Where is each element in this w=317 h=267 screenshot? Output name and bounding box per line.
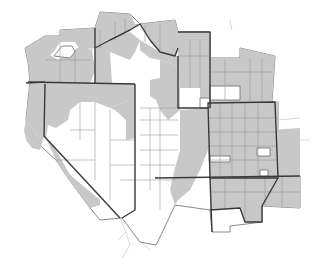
border-or-ca: [26, 82, 45, 83]
region-colorado: [208, 102, 280, 178]
county-map: [0, 0, 317, 267]
